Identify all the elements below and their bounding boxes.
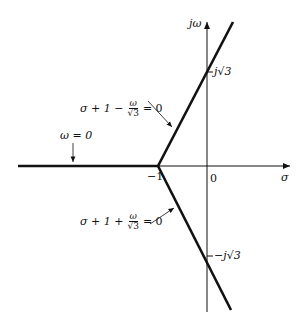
lower-line-equation: σ + 1 + ω√3 = 0	[80, 212, 163, 232]
vertex-label: −1	[147, 171, 163, 182]
root-locus-diagram: jω σ 0 −1 j√3 −j√3 ω = 0 σ + 1 − ω√3 = 0…	[0, 0, 305, 331]
origin-label: 0	[210, 173, 217, 184]
sigma-axis-label: σ	[281, 172, 289, 183]
omega-zero-label: ω = 0	[60, 130, 92, 141]
lower-locus-line	[158, 166, 231, 310]
j-sqrt3-marker: j√3	[214, 66, 231, 77]
jomega-axis-label: jω	[189, 18, 201, 29]
diagram-canvas	[0, 0, 305, 331]
upper-locus-line	[158, 22, 233, 166]
neg-j-sqrt3-marker: −j√3	[214, 250, 241, 261]
upper-line-equation: σ + 1 − ω√3 = 0	[80, 99, 163, 119]
